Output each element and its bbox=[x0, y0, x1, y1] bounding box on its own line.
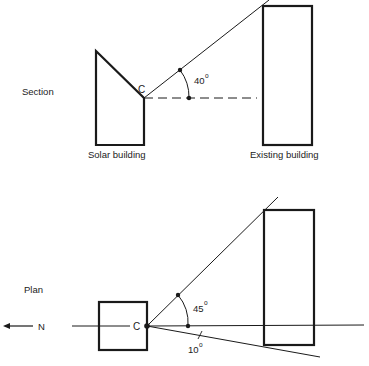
solar-access-diagram: Section C 40 o Solar building Existing b… bbox=[0, 0, 369, 366]
existing-building-section-shape bbox=[263, 6, 312, 145]
north-arrowhead-icon bbox=[3, 323, 10, 329]
plan-angle-45-label: 45 bbox=[193, 303, 204, 314]
plan-arc-endpoint-dot bbox=[186, 324, 190, 328]
section-title: Section bbox=[22, 86, 54, 97]
section-angle-degree-symbol: o bbox=[205, 72, 209, 79]
section-angle-arc bbox=[180, 70, 189, 98]
section-angle-label: 40 bbox=[194, 75, 205, 86]
plan-45-degree-line bbox=[147, 197, 278, 326]
plan-arc-endpoint-dot bbox=[176, 293, 180, 297]
plan-view: Plan N C 45 o 10 o bbox=[3, 197, 364, 357]
existing-building-label: Existing building bbox=[250, 149, 319, 160]
solar-building-section-shape bbox=[96, 51, 144, 145]
north-label: N bbox=[38, 321, 45, 332]
plan-point-c-label: C bbox=[133, 321, 140, 332]
section-point-c-label: C bbox=[138, 84, 145, 95]
section-view: Section C 40 o Solar building Existing b… bbox=[22, 0, 319, 160]
plan-angle-45-degree-symbol: o bbox=[204, 299, 208, 306]
plan-angle-10-label: 10 bbox=[188, 344, 199, 355]
plan-angle-10-degree-symbol: o bbox=[199, 341, 203, 348]
section-sight-line bbox=[144, 0, 269, 98]
plan-axis-line-right bbox=[147, 325, 364, 326]
plan-angle-arc bbox=[178, 295, 188, 326]
section-arc-endpoint-dot bbox=[178, 68, 182, 72]
existing-building-plan-shape bbox=[264, 210, 314, 345]
plan-point-c-dot bbox=[144, 323, 150, 329]
plan-10-degree-line bbox=[147, 326, 320, 357]
section-arc-endpoint-dot bbox=[187, 96, 191, 100]
solar-building-label: Solar building bbox=[88, 149, 146, 160]
plan-title: Plan bbox=[24, 284, 43, 295]
